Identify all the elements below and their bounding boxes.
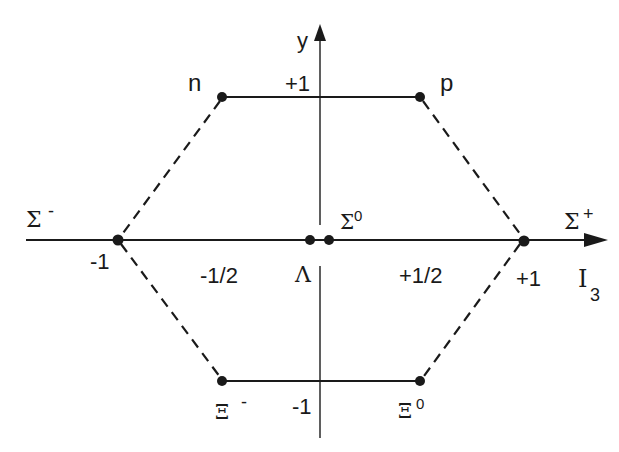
- label-sigma-minus-sup: -: [48, 201, 54, 221]
- label-xi-minus: Ξ: [215, 400, 229, 424]
- point-sigma-zero[interactable]: [324, 235, 334, 245]
- label-sigma-zero: Σ: [340, 210, 354, 234]
- diagram-canvas: y I 3 n p Σ - Λ: [0, 0, 619, 452]
- label-xi-zero-sup: 0: [416, 395, 424, 412]
- point-lambda[interactable]: [305, 235, 315, 245]
- baryon-octet-diagram: y I 3 n p Σ - Λ: [0, 0, 619, 452]
- y-tick-minus-1: -1: [292, 394, 312, 419]
- point-xi-zero[interactable]: [415, 376, 425, 386]
- label-n: n: [188, 69, 201, 96]
- x-axis-label: I: [578, 265, 587, 293]
- label-p: p: [440, 69, 453, 96]
- point-sigma-plus[interactable]: [519, 236, 530, 247]
- point-p[interactable]: [415, 92, 425, 102]
- label-sigma-minus: Σ: [26, 207, 42, 232]
- point-n[interactable]: [217, 92, 227, 102]
- x-tick-minus-1: -1: [90, 249, 110, 274]
- label-xi-zero: Ξ: [398, 399, 412, 423]
- label-sigma-plus: Σ: [564, 209, 580, 234]
- label-sigma-plus-sup: +: [583, 204, 594, 224]
- y-tick-plus-1: +1: [285, 71, 310, 96]
- x-tick-minus-half: -1/2: [200, 263, 238, 288]
- point-sigma-minus[interactable]: [113, 235, 124, 246]
- x-axis-arrowhead: [584, 233, 608, 247]
- x-tick-plus-1: +1: [516, 266, 541, 291]
- point-xi-minus[interactable]: [217, 376, 227, 386]
- x-tick-plus-half: +1/2: [399, 263, 442, 288]
- edge-p-sigma-plus: [423, 101, 523, 238]
- label-xi-minus-sup: -: [241, 392, 247, 412]
- label-sigma-zero-sup: 0: [354, 207, 362, 224]
- x-axis-label-sub: 3: [590, 285, 600, 305]
- y-axis-arrowhead: [314, 24, 326, 41]
- y-axis-label: y: [297, 28, 308, 53]
- label-lambda: Λ: [294, 262, 312, 287]
- edge-n-sigma-minus: [118, 101, 220, 240]
